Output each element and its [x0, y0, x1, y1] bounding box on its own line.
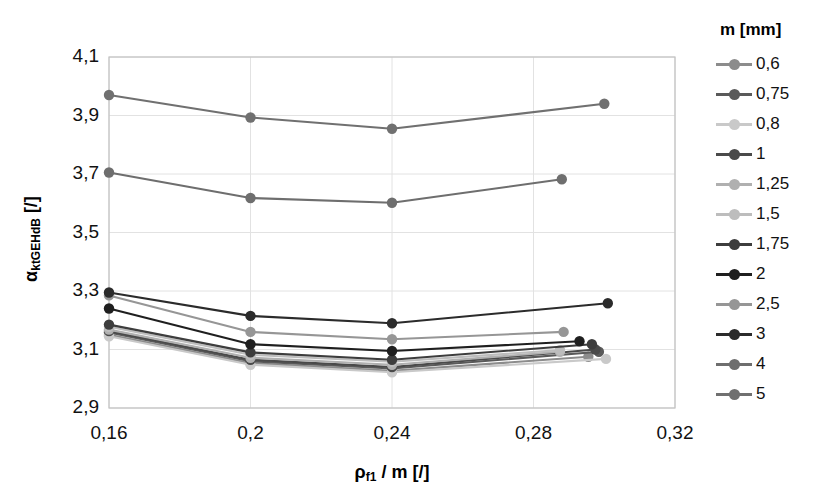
legend-item-label: 1,25 [756, 174, 789, 194]
legend-item[interactable]: 4 [716, 349, 828, 379]
legend-item[interactable]: 0,75 [716, 79, 828, 109]
legend-marker-icon [729, 299, 740, 310]
legend-swatch [716, 207, 752, 221]
series-line [109, 95, 604, 129]
y-axis-unit: [/] [21, 196, 41, 218]
y-tick-label: 3,1 [45, 338, 99, 360]
y-axis-symbol: α [21, 271, 41, 282]
legend-marker-icon [729, 179, 740, 190]
legend-marker-icon [729, 269, 740, 280]
data-point-marker [245, 193, 255, 203]
legend-item[interactable]: 0,6 [716, 49, 828, 79]
x-tick-label: 0,32 [640, 422, 710, 444]
legend-item[interactable]: 2,5 [716, 289, 828, 319]
legend-swatch [716, 387, 752, 401]
y-tick-label: 3,5 [45, 221, 99, 243]
y-axis-title: αktGEHdB [/] [21, 144, 43, 334]
y-axis-subscript: ktGEHdB [29, 218, 43, 271]
data-point-marker [557, 174, 567, 184]
legend-marker-icon [729, 359, 740, 370]
x-axis-title: ρf1 / m [/] [292, 462, 492, 484]
data-point-marker [387, 198, 397, 208]
legend-item-label: 0,8 [756, 114, 780, 134]
legend-item[interactable]: 5 [716, 379, 828, 409]
legend-item-label: 0,6 [756, 54, 780, 74]
series-line [109, 173, 562, 203]
y-tick-label: 3,9 [45, 104, 99, 126]
legend-item[interactable]: 1 [716, 139, 828, 169]
legend-item-label: 3 [756, 324, 765, 344]
legend-swatch [716, 147, 752, 161]
series-3 [104, 287, 613, 328]
data-point-marker [387, 124, 397, 134]
data-point-marker [245, 311, 255, 321]
legend-marker-icon [729, 389, 740, 400]
data-point-marker [104, 287, 114, 297]
legend-swatch [716, 177, 752, 191]
data-point-marker [387, 318, 397, 328]
data-point-marker [603, 298, 613, 308]
legend-item[interactable]: 2 [716, 259, 828, 289]
x-axis-symbol: ρ [355, 462, 366, 482]
data-point-marker [599, 99, 609, 109]
x-tick-label: 0,24 [357, 422, 427, 444]
legend-marker-icon [729, 209, 740, 220]
y-tick-label: 3,3 [45, 279, 99, 301]
data-point-marker [387, 334, 397, 344]
data-point-marker [587, 339, 597, 349]
chart-figure: 4,1 3,9 3,7 3,5 3,3 3,1 2,9 0,16 0,2 0,2… [0, 0, 828, 502]
legend: m [mm] 0,60,750,811,251,51,7522,5345 [716, 20, 828, 409]
data-point-marker [104, 303, 114, 313]
legend-swatch [716, 357, 752, 371]
legend-swatch [716, 267, 752, 281]
data-point-marker [104, 319, 114, 329]
legend-item[interactable]: 3 [716, 319, 828, 349]
legend-item-label: 0,75 [756, 84, 789, 104]
legend-marker-icon [729, 119, 740, 130]
legend-item-label: 5 [756, 384, 765, 404]
data-point-marker [574, 336, 584, 346]
legend-item[interactable]: 0,8 [716, 109, 828, 139]
legend-item-label: 1,75 [756, 234, 789, 254]
legend-swatch [716, 87, 752, 101]
legend-swatch [716, 57, 752, 71]
data-point-marker [387, 346, 397, 356]
x-tick-label: 0,28 [499, 422, 569, 444]
series-line [109, 293, 608, 324]
legend-item-label: 1 [756, 144, 765, 164]
legend-swatch [716, 237, 752, 251]
data-point-marker [104, 90, 114, 100]
data-point-marker [245, 112, 255, 122]
y-tick-label: 3,7 [45, 162, 99, 184]
y-tick-label: 4,1 [45, 45, 99, 67]
legend-marker-icon [729, 59, 740, 70]
legend-swatch [716, 297, 752, 311]
legend-marker-icon [729, 239, 740, 250]
x-tick-label: 0,16 [74, 422, 144, 444]
legend-swatch [716, 327, 752, 341]
data-point-marker [601, 354, 611, 364]
legend-entries: 0,60,750,811,251,51,7522,5345 [716, 49, 828, 409]
series-line [109, 295, 564, 339]
legend-item[interactable]: 1,25 [716, 169, 828, 199]
legend-marker-icon [729, 149, 740, 160]
data-point-marker [104, 167, 114, 177]
legend-marker-icon [729, 89, 740, 100]
legend-item[interactable]: 1,5 [716, 199, 828, 229]
y-tick-label: 2,9 [45, 396, 99, 418]
legend-item-label: 2 [756, 264, 765, 284]
legend-title: m [mm] [720, 20, 828, 40]
x-axis-unit: / m [/] [376, 462, 429, 482]
legend-marker-icon [729, 329, 740, 340]
data-point-marker [558, 327, 568, 337]
data-point-marker [245, 339, 255, 349]
legend-item[interactable]: 1,75 [716, 229, 828, 259]
legend-item-label: 4 [756, 354, 765, 374]
data-point-marker [245, 327, 255, 337]
x-tick-label: 0,2 [216, 422, 286, 444]
series-4 [104, 167, 567, 208]
legend-swatch [716, 117, 752, 131]
legend-item-label: 2,5 [756, 294, 780, 314]
legend-item-label: 1,5 [756, 204, 780, 224]
x-axis-subscript: f1 [366, 470, 377, 484]
